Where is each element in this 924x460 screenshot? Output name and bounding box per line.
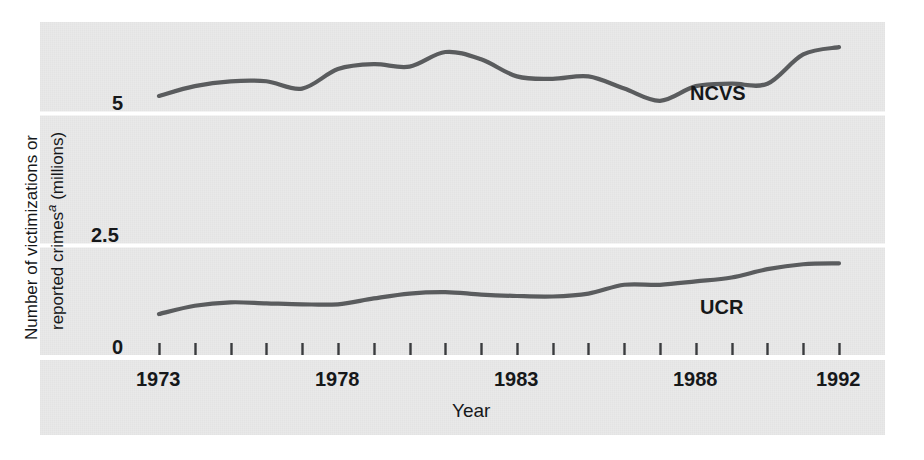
series-label-ncvs: NCVS	[690, 82, 746, 105]
x-tick-label-1973: 1973	[136, 368, 181, 391]
chart-canvas	[0, 0, 924, 460]
x-axis-title: Year	[452, 400, 490, 422]
series-label-ucr: UCR	[700, 296, 743, 319]
y-axis-title-line-1: Number of victimizations or	[22, 135, 42, 340]
x-tick-label-1988: 1988	[673, 368, 718, 391]
y-tick-label-0: 0	[112, 336, 123, 359]
y-tick-label-5: 5	[112, 92, 123, 115]
x-axis-ticks	[160, 343, 840, 355]
x-tick-label-1983: 1983	[494, 368, 539, 391]
chart-figure: 5 2.5 0 Number of victimizations or repo…	[0, 0, 924, 460]
gridlines	[40, 114, 885, 358]
y-axis-title-text: reported crimes	[48, 212, 67, 330]
y-axis-title-line-2: reported crimesa (millions)	[44, 132, 68, 330]
y-tick-label-2point5: 2.5	[91, 224, 119, 247]
footnote-marker: a	[44, 205, 59, 212]
y-axis-title-units: (millions)	[48, 132, 67, 205]
x-tick-label-1978: 1978	[315, 368, 360, 391]
x-tick-label-1992: 1992	[816, 368, 861, 391]
